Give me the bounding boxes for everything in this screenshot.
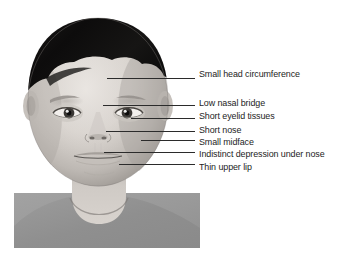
leader-line-short-nose [106,131,195,132]
face-illustration [0,0,344,258]
label-short-eyelid-tissues: Short eyelid tissues [199,111,275,121]
label-short-nose: Short nose [199,125,241,135]
label-indistinct-depression: Indistinct depression under nose [199,149,325,159]
leader-line-small-head-circumference [107,78,195,79]
leader-line-small-midface [141,140,195,141]
leader-line-indistinct-depression [104,152,195,153]
label-thin-upper-lip: Thin upper lip [199,162,252,172]
label-small-head-circumference: Small head circumference [199,69,300,79]
figure-panel: Small head circumference Low nasal bridg… [0,0,344,258]
leader-line-low-nasal-bridge [103,105,195,106]
leader-line-thin-upper-lip [119,164,195,165]
label-small-midface: Small midface [199,137,254,147]
label-low-nasal-bridge: Low nasal bridge [199,98,265,108]
leader-line-short-eyelid-tissues [131,118,195,119]
